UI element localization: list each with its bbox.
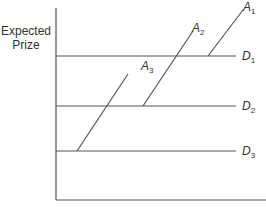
label-a3: A3 bbox=[141, 59, 153, 75]
label-d3: D3 bbox=[242, 144, 255, 160]
label-a1: A1 bbox=[243, 0, 255, 16]
line-a3 bbox=[77, 74, 128, 151]
label-a2: A2 bbox=[192, 21, 204, 37]
diagram-canvas bbox=[0, 0, 266, 210]
label-d2: D2 bbox=[242, 99, 255, 115]
line-a1 bbox=[208, 10, 243, 56]
label-d1: D1 bbox=[242, 49, 255, 65]
